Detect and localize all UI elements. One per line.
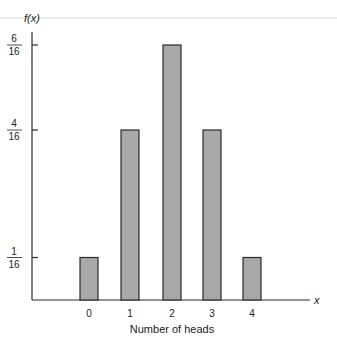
y-tick-denominator: 16 bbox=[8, 46, 20, 57]
y-tick-numerator: 4 bbox=[11, 118, 17, 129]
bar-chart: f(x) x 116416616 01234 Number of heads bbox=[0, 0, 337, 347]
x-tick-label: 3 bbox=[209, 308, 215, 319]
bars bbox=[80, 45, 261, 300]
bar-0 bbox=[80, 258, 98, 301]
x-tick-label: 1 bbox=[127, 308, 133, 319]
y-axis-title: f(x) bbox=[24, 12, 40, 24]
x-tick-label: 0 bbox=[86, 308, 92, 319]
y-ticks: 116416616 bbox=[7, 33, 38, 270]
x-tick-labels: 01234 bbox=[86, 308, 255, 319]
y-tick-numerator: 6 bbox=[11, 33, 17, 44]
bar-3 bbox=[203, 130, 221, 300]
x-axis-title: Number of heads bbox=[130, 323, 215, 335]
x-tick-label: 4 bbox=[249, 308, 255, 319]
y-tick-denominator: 16 bbox=[8, 131, 20, 142]
bar-1 bbox=[121, 130, 139, 300]
x-axis-symbol: x bbox=[313, 294, 320, 306]
x-tick-label: 2 bbox=[169, 308, 175, 319]
bar-4 bbox=[243, 258, 261, 301]
bar-2 bbox=[163, 45, 181, 300]
y-tick-numerator: 1 bbox=[11, 246, 17, 257]
y-tick-denominator: 16 bbox=[8, 259, 20, 270]
